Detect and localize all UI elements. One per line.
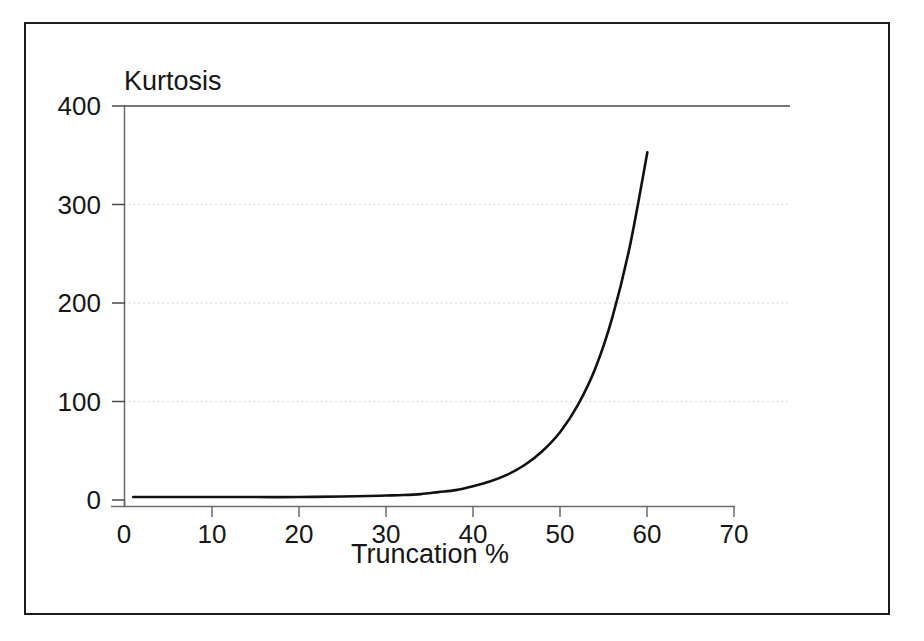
y-tick-label-400: 400: [33, 93, 101, 119]
x-tick-label-50: 50: [546, 521, 575, 547]
y-tick-label-0: 0: [33, 487, 101, 513]
y-tick-label-200: 200: [33, 290, 101, 316]
y-axis-title: Kurtosis: [124, 68, 222, 95]
x-tick-label-20: 20: [285, 521, 314, 547]
y-tick-label-300: 300: [33, 192, 101, 218]
chart-figure: 400 300 200 100 0 0 10 20 30 40 50 60 70…: [0, 0, 924, 641]
y-tick-label-100: 100: [33, 389, 101, 415]
x-tick-label-60: 60: [633, 521, 662, 547]
x-tick-label-10: 10: [198, 521, 227, 547]
x-axis-title: Truncation %: [351, 541, 509, 568]
x-tick-label-0: 0: [117, 521, 131, 547]
figure-border: [24, 22, 890, 615]
x-tick-label-70: 70: [720, 521, 749, 547]
